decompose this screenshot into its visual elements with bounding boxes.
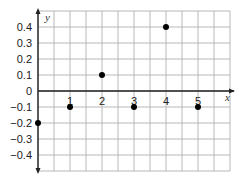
x-axis-label: x [224, 91, 230, 103]
y-tick-label: 0.4 [17, 21, 32, 33]
data-point [195, 104, 201, 110]
data-point [99, 72, 105, 78]
data-point [67, 104, 73, 110]
data-point [163, 24, 169, 30]
y-tick-label: 0.1 [17, 69, 32, 81]
scatter-chart: 0.40.30.20.10−0.1−0.2−0.3−0.4 12345 x y [0, 0, 250, 183]
y-tick-label: −0.3 [10, 133, 32, 145]
x-tick-label: 2 [99, 95, 105, 107]
x-axis-arrow-icon [229, 89, 235, 94]
y-tick-label: 0.2 [17, 53, 32, 65]
y-tick-label: −0.2 [10, 117, 32, 129]
x-tick-label: 4 [163, 95, 169, 107]
y-tick-label: 0 [26, 85, 32, 97]
y-tick-label: −0.4 [10, 149, 32, 161]
y-tick-label: 0.3 [17, 37, 32, 49]
y-tick-label: −0.1 [10, 101, 32, 113]
data-point [131, 104, 137, 110]
y-axis-label: y [44, 11, 50, 23]
y-tick-labels: 0.40.30.20.10−0.1−0.2−0.3−0.4 [10, 21, 32, 161]
axes [36, 8, 236, 174]
data-point [35, 120, 41, 126]
